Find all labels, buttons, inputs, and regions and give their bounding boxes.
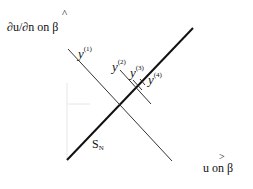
sn-label: SN (92, 137, 104, 152)
y-axis-hat-icon: ^ (62, 7, 67, 19)
y4-label: y(4) (148, 71, 162, 88)
y2-label: y(2) (112, 58, 126, 75)
y3-label: y(3) (130, 64, 144, 81)
y-axis-label: ∂u/∂n on β (7, 20, 58, 35)
x-axis-hat-icon: > (219, 151, 225, 162)
x-axis-label: u on β (203, 161, 233, 176)
y1-label: y(1) (78, 45, 92, 62)
